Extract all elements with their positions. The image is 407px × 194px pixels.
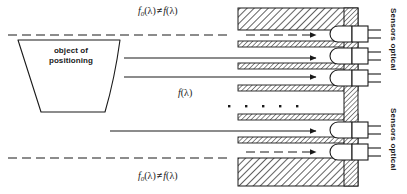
object-of-positioning-label: object of positioning	[38, 46, 104, 66]
formula-top: f0(λ)≠f(λ)	[138, 5, 178, 18]
object-label-line1: object of	[54, 46, 88, 55]
optical-sensor-3	[330, 70, 381, 86]
optical-sensor-1	[330, 26, 381, 42]
diagram-svg	[0, 0, 407, 194]
formula-bottom-arg2: (λ)	[166, 170, 178, 181]
formula-center-arg: (λ)	[181, 87, 193, 98]
formula-bottom-arg: (λ)	[144, 170, 156, 181]
formula-top-arg: (λ)	[144, 5, 156, 16]
object-label-line2: positioning	[49, 56, 93, 65]
baffle-block-bottom	[238, 158, 358, 186]
sensors-optical-label-upper: Sensors optical	[389, 8, 398, 71]
dashed-ray-bottom	[8, 152, 316, 158]
optical-sensor-2	[330, 48, 381, 64]
formula-center: f(λ)	[178, 87, 192, 98]
formula-top-arg2: (λ)	[166, 5, 178, 16]
optical-sensor-4	[330, 122, 381, 138]
diagram-canvas: object of positioning f0(λ)≠f(λ) f(λ) f0…	[0, 0, 407, 194]
ellipsis-dots	[228, 105, 298, 107]
baffle-bar-4	[238, 114, 358, 120]
optical-sensor-5	[330, 144, 381, 160]
formula-bottom: f0(λ)≠f(λ)	[138, 170, 178, 183]
sensors-optical-label-lower: Sensors optical	[389, 108, 398, 171]
